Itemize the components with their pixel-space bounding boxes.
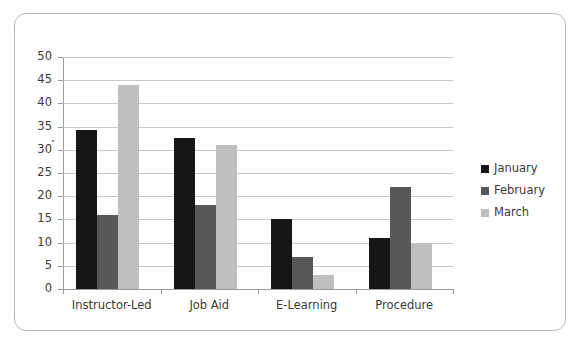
bar [174, 138, 195, 289]
legend-swatch-icon [481, 165, 489, 173]
legend-label: February [494, 185, 545, 197]
x-category-label: Procedure [375, 298, 433, 312]
x-category-label: Instructor-Led [72, 298, 152, 312]
gridline-45 [63, 80, 453, 81]
y-tick-label: 5 [26, 260, 52, 272]
x-tick-mark [356, 289, 357, 294]
bar [411, 243, 432, 289]
x-category-label: E-Learning [276, 298, 337, 312]
bar [76, 130, 97, 289]
stray-speck-artifact [52, 140, 54, 142]
x-tick-mark [161, 289, 162, 294]
bar [271, 219, 292, 289]
bar [313, 275, 334, 289]
legend-item: January [481, 158, 545, 180]
y-tick-label: 45 [26, 74, 52, 86]
legend-label: March [494, 207, 529, 219]
y-tick-label: 40 [26, 97, 52, 109]
x-tick-mark [453, 289, 454, 294]
y-tick-label: 15 [26, 213, 52, 225]
legend-swatch-icon [481, 209, 489, 217]
y-tick-label: 10 [26, 237, 52, 249]
y-tick-label: 0 [26, 283, 52, 295]
legend-swatch-icon [481, 187, 489, 195]
x-tick-mark [258, 289, 259, 294]
y-tick-label: 35 [26, 121, 52, 133]
y-tick-label: 30 [26, 144, 52, 156]
bar [216, 145, 237, 289]
legend-item: March [481, 202, 545, 224]
bar [195, 205, 216, 289]
x-category-label: Job Aid [189, 298, 229, 312]
bar [118, 85, 139, 289]
bar [97, 215, 118, 289]
bar [369, 238, 390, 289]
x-tick-mark-origin [63, 289, 64, 294]
chart-legend: JanuaryFebruaryMarch [481, 158, 545, 224]
chart-frame: 05101520253035404550 Instructor-LedJob A… [14, 13, 566, 331]
gridline-50 [63, 57, 453, 58]
legend-label: January [494, 163, 538, 175]
legend-item: February [481, 180, 545, 202]
bar [292, 257, 313, 289]
bar [390, 187, 411, 289]
y-tick-label: 50 [26, 51, 52, 63]
plot-area: Instructor-LedJob AidE-LearningProcedure [63, 57, 453, 289]
y-tick-label: 25 [26, 167, 52, 179]
y-tick-label: 20 [26, 190, 52, 202]
